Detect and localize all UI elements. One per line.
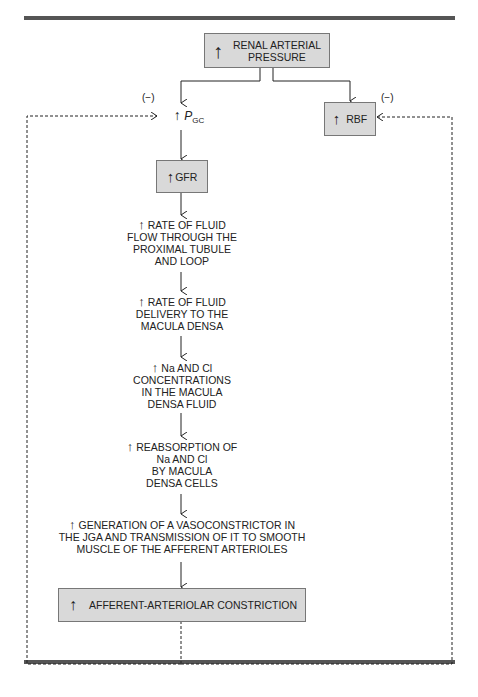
increase-arrow-icon: ↑ <box>167 171 175 183</box>
negative-feedback-label-left: (−) <box>142 92 155 103</box>
gfr-box: ↑ GFR <box>156 160 208 193</box>
rbf-box: ↑ RBF <box>324 102 376 136</box>
afferent-constriction-box: ↑ AFFERENT-ARTERIOLAR CONSTRICTION <box>58 588 306 622</box>
increase-arrow-icon: ↑ <box>69 599 77 611</box>
renal-arterial-pressure-box: ↑ RENAL ARTERIAL PRESSURE <box>204 33 330 68</box>
delivery-macula-node: ↑RATE OF FLUID DELIVERY TO THE MACULA DE… <box>136 296 228 332</box>
increase-arrow-icon: ↑ <box>174 107 181 123</box>
increase-arrow-icon: ↑ <box>138 294 145 309</box>
p-gc-node: ↑ PGC <box>174 109 204 127</box>
vasoconstrictor-node: ↑GENERATION OF A VASOCONSTRICTOR IN THE … <box>59 519 306 555</box>
rbf-label: RBF <box>346 113 367 125</box>
reabsorption-node: ↑REABSORPTION OF Na AND Cl BY MACULA DEN… <box>127 441 237 489</box>
flow-proximal-node: ↑RATE OF FLUID FLOW THROUGH THE PROXIMAL… <box>127 219 237 267</box>
gfr-label: GFR <box>175 171 197 183</box>
increase-arrow-icon: ↑ <box>333 113 341 125</box>
increase-arrow-icon: ↑ <box>69 517 76 532</box>
increase-arrow-icon: ↑ <box>152 360 159 375</box>
increase-arrow-icon: ↑ <box>127 439 134 454</box>
na-cl-concentration-node: ↑Na AND Cl CONCENTRATIONS IN THE MACULA … <box>133 362 231 410</box>
renal-arterial-pressure-label: RENAL ARTERIAL PRESSURE <box>233 39 321 63</box>
afferent-constriction-label: AFFERENT-ARTERIOLAR CONSTRICTION <box>89 599 297 611</box>
negative-feedback-label-right: (−) <box>381 92 394 103</box>
increase-arrow-icon: ↑ <box>138 217 145 232</box>
increase-arrow-icon: ↑ <box>213 45 223 57</box>
